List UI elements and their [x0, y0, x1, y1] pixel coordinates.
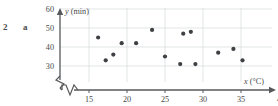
data-point — [189, 30, 193, 34]
y-axis-label: y (min) — [64, 7, 89, 16]
data-point — [134, 41, 138, 45]
x-axis-label: x (°C) — [243, 77, 264, 86]
x-tick-label: 4 — [277, 95, 278, 104]
data-point — [181, 32, 185, 36]
y-tick-label: 40 — [46, 43, 54, 52]
data-point — [231, 47, 235, 51]
figure-page: 2 a 1520253035430405060 y (min)x (°C) — [0, 0, 278, 106]
x-tick-label: 35 — [237, 95, 245, 104]
y-tick-label: 50 — [46, 24, 54, 33]
y-tick-label: 60 — [46, 5, 54, 14]
scatter-plot: 1520253035430405060 y (min)x (°C) — [0, 0, 278, 106]
x-tick-label: 25 — [161, 95, 169, 104]
x-tick-label: 30 — [199, 95, 207, 104]
x-axis-label-symbol: x — [243, 77, 250, 86]
data-point — [120, 41, 124, 45]
data-point — [240, 58, 244, 62]
axis-labels-group: y (min)x (°C) — [64, 7, 264, 86]
data-point — [193, 62, 197, 66]
x-tick-label: 20 — [123, 95, 131, 104]
x-tick-label: 15 — [85, 95, 93, 104]
y-axis-label-unit: (min) — [71, 7, 89, 16]
y-axis-label-symbol: y — [64, 7, 71, 16]
gridlines-group — [60, 8, 272, 82]
y-tick-label: 30 — [46, 62, 54, 71]
x-axis-arrow-icon — [269, 87, 276, 93]
data-point — [163, 54, 167, 58]
tick-labels-group: 1520253035430405060 — [46, 5, 278, 104]
data-point — [104, 58, 108, 62]
data-point — [150, 28, 154, 32]
data-point — [111, 53, 115, 57]
data-point — [216, 51, 220, 55]
data-point — [96, 35, 100, 39]
data-point — [178, 62, 182, 66]
x-axis-label-unit: (°C) — [250, 77, 264, 86]
